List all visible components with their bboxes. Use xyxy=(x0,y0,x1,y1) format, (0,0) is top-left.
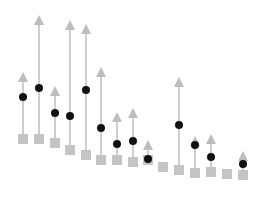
circle-marker xyxy=(207,153,215,161)
circle-marker xyxy=(144,155,152,163)
square-marker xyxy=(206,167,216,177)
square-marker xyxy=(18,134,28,144)
circle-marker xyxy=(66,112,74,120)
arrow-scatter-chart xyxy=(0,0,264,201)
circle-marker xyxy=(19,93,27,101)
circle-marker xyxy=(191,141,199,149)
circle-marker xyxy=(175,121,183,129)
square-marker xyxy=(128,157,138,167)
circle-marker xyxy=(129,137,137,145)
square-marker xyxy=(65,145,75,155)
circle-marker xyxy=(51,109,59,117)
square-marker xyxy=(34,134,44,144)
circle-marker xyxy=(97,124,105,132)
square-marker xyxy=(190,168,200,178)
square-marker xyxy=(81,150,91,160)
square-marker xyxy=(96,155,106,165)
circle-marker xyxy=(113,140,121,148)
square-marker xyxy=(222,169,232,179)
circle-marker xyxy=(239,160,247,168)
square-marker xyxy=(112,155,122,165)
circle-marker xyxy=(35,84,43,92)
square-marker xyxy=(238,170,248,180)
circle-marker xyxy=(82,86,90,94)
square-marker xyxy=(50,138,60,148)
square-marker xyxy=(174,165,184,175)
square-marker xyxy=(158,162,168,172)
